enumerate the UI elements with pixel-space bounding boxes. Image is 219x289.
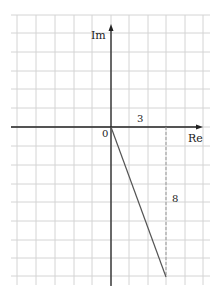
complex-plane-diagram: Im Re 0 3 8 <box>0 0 219 289</box>
imaginary-part-label: 8 <box>172 193 178 204</box>
imaginary-axis-label: Im <box>91 29 106 42</box>
real-axis-label: Re <box>188 132 203 145</box>
imaginary-axis-arrow-icon <box>109 24 114 31</box>
real-part-label: 3 <box>137 113 143 124</box>
origin-label: 0 <box>102 128 108 139</box>
real-axis-arrow-icon <box>196 125 203 130</box>
